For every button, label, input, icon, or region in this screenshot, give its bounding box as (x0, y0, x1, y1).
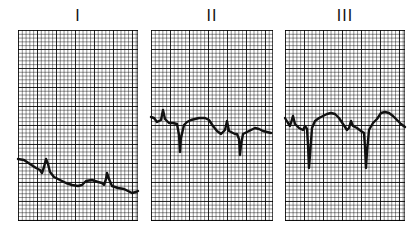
ecg-trace-lead-iii (285, 30, 405, 221)
lead-label-ii: II (207, 9, 218, 24)
lead-label-i: I (75, 9, 80, 24)
ecg-panel-lead-iii (285, 30, 405, 221)
ecg-trace-lead-ii (151, 30, 273, 221)
ecg-panel-lead-ii (151, 30, 273, 221)
ecg-panel-lead-i (18, 30, 138, 221)
lead-label-iii: III (337, 9, 353, 24)
ecg-trace-lead-i (18, 30, 138, 221)
